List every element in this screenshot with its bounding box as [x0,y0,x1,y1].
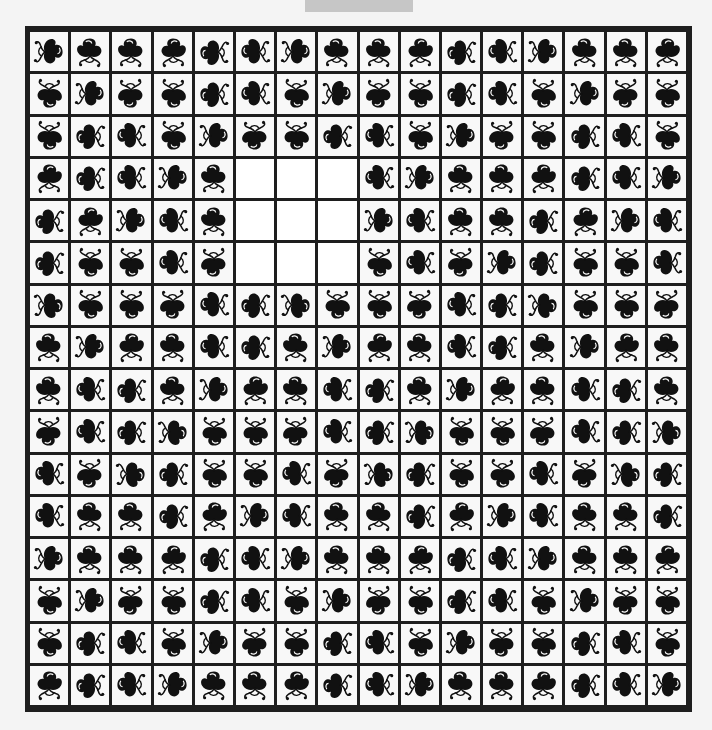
tile[interactable] [648,624,686,663]
tile[interactable] [360,74,398,113]
tile[interactable] [360,328,398,367]
tile[interactable] [30,328,68,367]
tile[interactable] [154,243,192,282]
tile[interactable] [236,370,274,409]
tile[interactable] [195,32,233,71]
tile[interactable] [483,201,521,240]
tile[interactable] [236,328,274,367]
tile[interactable] [154,581,192,620]
tile[interactable] [483,497,521,536]
tile[interactable] [71,243,109,282]
tile[interactable] [524,286,562,325]
tile[interactable] [607,581,645,620]
tile[interactable] [442,328,480,367]
tile[interactable] [71,32,109,71]
tile[interactable] [442,159,480,198]
tile[interactable] [648,581,686,620]
tile[interactable] [71,286,109,325]
tile[interactable] [648,74,686,113]
tile[interactable] [71,159,109,198]
tile[interactable] [112,328,150,367]
tile[interactable] [565,497,603,536]
tile[interactable] [154,455,192,494]
tile[interactable] [565,32,603,71]
tile[interactable] [648,412,686,451]
tile[interactable] [565,286,603,325]
tile[interactable] [442,497,480,536]
tile[interactable] [442,243,480,282]
tile[interactable] [483,624,521,663]
tile[interactable] [277,455,315,494]
tile[interactable] [112,117,150,156]
tile[interactable] [442,624,480,663]
tile[interactable] [277,666,315,705]
tile[interactable] [277,624,315,663]
tile[interactable] [483,243,521,282]
tile[interactable] [71,117,109,156]
tile[interactable] [154,370,192,409]
tile[interactable] [195,581,233,620]
tile[interactable] [195,497,233,536]
tile[interactable] [648,117,686,156]
tile[interactable] [401,539,439,578]
tile[interactable] [277,370,315,409]
tile[interactable] [30,666,68,705]
tile[interactable] [648,455,686,494]
tile[interactable] [277,581,315,620]
tile[interactable] [607,328,645,367]
tile[interactable] [277,412,315,451]
tile[interactable] [236,624,274,663]
tile[interactable] [195,74,233,113]
tile[interactable] [154,666,192,705]
tile[interactable] [442,581,480,620]
tile[interactable] [648,32,686,71]
tile[interactable] [360,666,398,705]
tile[interactable] [112,412,150,451]
tile[interactable] [360,624,398,663]
tile[interactable] [277,74,315,113]
tile[interactable] [154,201,192,240]
tile[interactable] [607,370,645,409]
tile[interactable] [565,539,603,578]
tile[interactable] [112,497,150,536]
tile[interactable] [318,666,356,705]
tile[interactable] [30,370,68,409]
tile[interactable] [277,328,315,367]
tile[interactable] [112,159,150,198]
tile[interactable] [195,117,233,156]
tile[interactable] [648,666,686,705]
tile[interactable] [524,539,562,578]
tile[interactable] [524,455,562,494]
empty-slot[interactable] [236,159,274,198]
tile[interactable] [524,624,562,663]
tile[interactable] [154,539,192,578]
tile[interactable] [401,455,439,494]
tile[interactable] [360,243,398,282]
tile[interactable] [112,74,150,113]
tile[interactable] [607,539,645,578]
tile[interactable] [71,74,109,113]
tile[interactable] [360,497,398,536]
tile[interactable] [71,666,109,705]
tile[interactable] [318,539,356,578]
tile[interactable] [30,286,68,325]
tile[interactable] [360,201,398,240]
tile[interactable] [195,370,233,409]
tile[interactable] [71,455,109,494]
tile[interactable] [648,201,686,240]
tile[interactable] [607,624,645,663]
tile[interactable] [401,32,439,71]
tile[interactable] [442,412,480,451]
tile[interactable] [565,328,603,367]
tile[interactable] [30,581,68,620]
tile[interactable] [112,581,150,620]
tile[interactable] [607,497,645,536]
tile[interactable] [318,286,356,325]
tile[interactable] [607,159,645,198]
tile[interactable] [195,412,233,451]
tile[interactable] [648,159,686,198]
tile[interactable] [607,117,645,156]
tile[interactable] [565,370,603,409]
tile[interactable] [607,412,645,451]
tile[interactable] [401,666,439,705]
